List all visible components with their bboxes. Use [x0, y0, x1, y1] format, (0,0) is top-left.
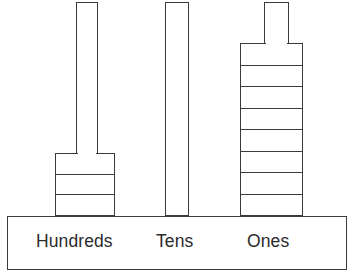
ones-segment	[241, 195, 302, 216]
ones-rod-joint	[266, 43, 288, 45]
hundreds-segment	[56, 195, 114, 215]
hundreds-segment	[56, 154, 114, 175]
ones-segment	[241, 44, 302, 66]
ones-block	[240, 43, 303, 216]
place-value-diagram: Hundreds Tens Ones	[0, 0, 354, 275]
ones-segment	[241, 109, 302, 131]
hundreds-rod-joint	[78, 153, 97, 155]
ones-segment	[241, 66, 302, 88]
hundreds-block	[55, 153, 115, 216]
ones-rod	[264, 2, 289, 44]
ones-segment	[241, 152, 302, 174]
ones-segment	[241, 130, 302, 152]
base-bar: Hundreds Tens Ones	[7, 216, 347, 270]
hundreds-rod	[76, 2, 98, 154]
tens-rod	[165, 2, 189, 216]
base-label-ones: Ones	[247, 233, 289, 251]
hundreds-segment	[56, 175, 114, 196]
base-label-tens: Tens	[156, 233, 193, 251]
ones-segment	[241, 87, 302, 109]
base-label-hundreds: Hundreds	[36, 233, 113, 251]
ones-segment	[241, 173, 302, 195]
